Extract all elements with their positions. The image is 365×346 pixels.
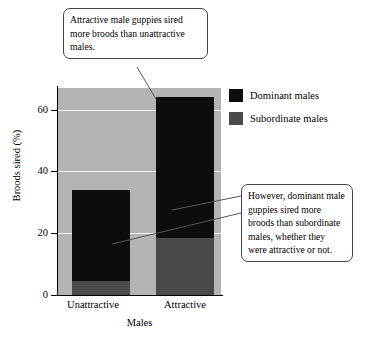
y-tick-20 (51, 233, 57, 234)
y-tick-40 (51, 171, 57, 172)
y-tick-0 (51, 295, 57, 296)
bar-segment-subordinate[interactable] (156, 238, 214, 295)
y-axis-title: Broods sired (%) (11, 106, 22, 226)
y-tick-label-20: 20 (30, 228, 48, 239)
bar-segment-dominant[interactable] (156, 97, 214, 238)
legend-label-subordinate: Subordinate males (250, 113, 328, 124)
x-tick-label-unattractive: Unattractive (43, 299, 143, 310)
y-tick-label-60: 60 (30, 105, 48, 116)
legend: Dominant males Subordinate males (229, 89, 328, 135)
y-axis-line (57, 86, 58, 296)
y-tick-label-40: 40 (30, 166, 48, 177)
bar-segment-dominant[interactable] (72, 190, 130, 281)
legend-item-subordinate[interactable]: Subordinate males (229, 112, 328, 125)
callout-right: However, dominant male guppies sired mor… (241, 184, 353, 262)
x-axis-title: Males (58, 317, 221, 328)
x-tick-label-attractive: Attractive (135, 299, 235, 310)
chart-figure: 0 20 40 60 Broods sired (%) Unattractive… (0, 0, 365, 346)
legend-swatch-subordinate (229, 112, 243, 125)
legend-label-dominant: Dominant males (250, 90, 319, 101)
callout-top: Attractive male guppies sired more brood… (63, 8, 208, 59)
y-tick-60 (51, 110, 57, 111)
x-axis-line (57, 295, 223, 296)
bar-segment-subordinate[interactable] (72, 281, 130, 295)
legend-item-dominant[interactable]: Dominant males (229, 89, 328, 102)
legend-swatch-dominant (229, 89, 243, 102)
plot-area (58, 88, 221, 295)
